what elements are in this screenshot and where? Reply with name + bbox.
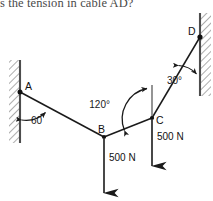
joint-c-node xyxy=(150,116,154,120)
force-label-b: 500 N xyxy=(109,152,136,163)
point-label-d: D xyxy=(188,25,196,37)
point-label-b: B xyxy=(98,123,105,135)
point-label-c: C xyxy=(156,114,164,126)
angle-label-c: 120° xyxy=(89,99,110,110)
angle-label-a: 60 xyxy=(31,115,43,126)
member-BC xyxy=(104,118,152,137)
figure-root: s the tension in cable AD? xyxy=(0,0,213,201)
point-label-a: A xyxy=(25,80,32,92)
statics-diagram: A B C D 60 120° 30° 500 N 500 N xyxy=(0,0,213,201)
wall-right xyxy=(200,13,211,96)
force-label-c: 500 N xyxy=(157,131,184,142)
joint-a-node xyxy=(18,90,23,95)
joint-b-node xyxy=(102,135,106,139)
joint-d-node xyxy=(197,34,202,39)
wall-right-hatching xyxy=(200,13,211,96)
wall-left-hatching xyxy=(9,60,20,143)
angle-label-d: 30° xyxy=(167,75,182,86)
wall-left xyxy=(9,60,20,143)
